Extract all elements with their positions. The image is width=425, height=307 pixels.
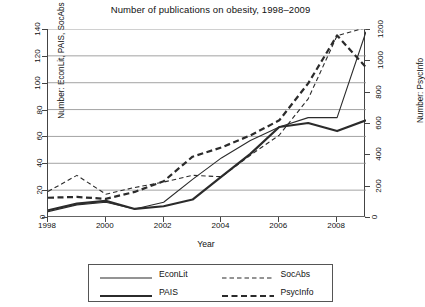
y-axis-right-title: Number: PsycInfo <box>416 31 425 151</box>
y-axis-right-tick-label: 0 <box>372 213 416 222</box>
y-axis-left-tick-label: 40 <box>4 159 44 168</box>
legend-label: PsycInfo <box>281 287 314 297</box>
legend-swatch-econlit <box>99 269 153 279</box>
legend-grid: EconLitSocAbsPAISPsycInfo <box>89 265 332 301</box>
y-axis-right-tick-label: 600 <box>372 119 416 128</box>
series-line-socabs <box>48 29 366 194</box>
x-axis-tick-mark <box>336 217 337 222</box>
y-axis-right-tick-label: 1200 <box>372 25 416 34</box>
x-axis-tick-label: 2000 <box>96 221 114 230</box>
y-axis-left-tick-label: 80 <box>4 105 44 114</box>
y-axis-left-tick-label: 140 <box>4 25 44 34</box>
legend-label: SocAbs <box>281 269 311 279</box>
y-axis-right-tick-mark <box>365 217 370 218</box>
series-line-econlit <box>48 32 366 212</box>
y-axis-right-tick-label: 400 <box>372 150 416 159</box>
y-axis-left-tick-label: 120 <box>4 51 44 60</box>
x-axis-tick-mark <box>163 217 164 222</box>
legend-label: PAIS <box>159 287 178 297</box>
x-axis-tick-label: 2002 <box>154 221 172 230</box>
y-axis-right-tick-label: 200 <box>372 181 416 190</box>
legend-item-econlit[interactable]: EconLit <box>89 269 211 279</box>
x-axis-tick-mark <box>105 217 106 222</box>
y-axis-left-tick-label: 60 <box>4 132 44 141</box>
x-axis-tick-label: 2006 <box>269 221 287 230</box>
plot-lines <box>48 29 366 217</box>
x-axis-title: Year <box>47 239 365 249</box>
y-axis-right-tick-label: 1000 <box>372 56 416 65</box>
x-axis-tick-mark <box>278 217 279 222</box>
legend-label: EconLit <box>159 269 188 279</box>
x-axis-tick-label: 1998 <box>38 221 56 230</box>
plot-area <box>47 29 365 217</box>
legend-swatch-psycinfo <box>221 287 275 297</box>
x-axis-tick-label: 2008 <box>327 221 345 230</box>
legend-swatch-pais <box>99 287 153 297</box>
chart-legend: EconLitSocAbsPAISPsycInfo <box>88 264 333 302</box>
x-axis-tick-mark <box>47 217 48 222</box>
legend-item-psycinfo[interactable]: PsycInfo <box>211 287 333 297</box>
x-axis-tick-label: 2004 <box>212 221 230 230</box>
legend-swatch-socabs <box>221 269 275 279</box>
y-axis-left-tick-label: 20 <box>4 186 44 195</box>
legend-item-pais[interactable]: PAIS <box>89 287 211 297</box>
legend-item-socabs[interactable]: SocAbs <box>211 269 333 279</box>
series-line-pais <box>48 120 366 210</box>
y-axis-left-tick-label: 100 <box>4 78 44 87</box>
y-axis-right-tick-label: 800 <box>372 87 416 96</box>
x-axis-tick-mark <box>220 217 221 222</box>
